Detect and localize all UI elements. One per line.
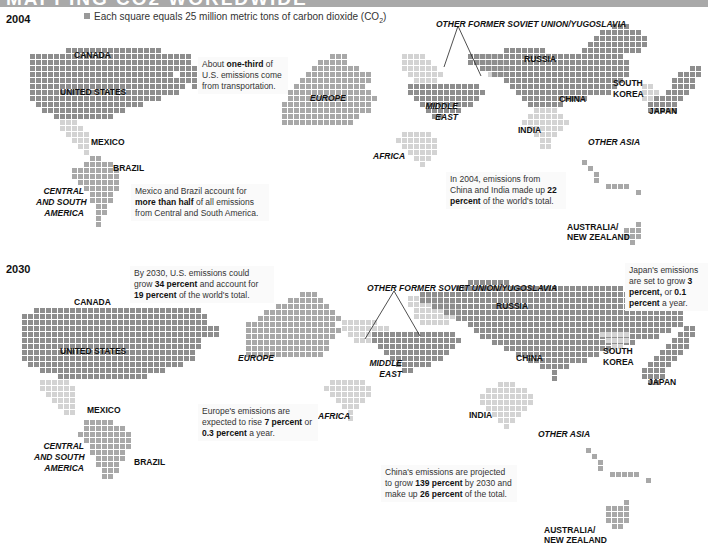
emission-square: [660, 368, 665, 373]
emission-square: [570, 292, 575, 297]
emission-square: [40, 314, 45, 319]
emission-square: [606, 332, 611, 337]
emission-square: [420, 350, 425, 355]
emission-square: [486, 328, 491, 333]
emission-square: [678, 344, 683, 349]
emission-square: [504, 334, 509, 339]
emission-square: [582, 304, 587, 309]
emission-square: [660, 328, 665, 333]
emission-square: [108, 438, 113, 443]
emission-square: [114, 468, 119, 473]
emission-square: [432, 350, 437, 355]
emission-square: [142, 308, 147, 313]
label-china-2030: CHINA: [516, 353, 543, 364]
emission-square: [258, 322, 263, 327]
emission-square: [88, 338, 93, 343]
emission-square: [46, 386, 51, 391]
emission-square: [252, 334, 257, 339]
emission-square: [112, 308, 117, 313]
label-middle-east-2004: MIDDLEEAST: [420, 101, 458, 123]
emission-square: [102, 462, 107, 467]
emission-square: [52, 320, 57, 325]
emission-square: [528, 334, 533, 339]
emission-square: [510, 328, 515, 333]
emission-square: [594, 304, 599, 309]
emission-square: [276, 316, 281, 321]
label-csa-2004: CENTRALAND SOUTHAMERICA: [36, 186, 84, 219]
emission-square: [516, 394, 521, 399]
emission-square: [124, 374, 129, 379]
emission-square: [52, 326, 57, 331]
emission-square: [100, 326, 105, 331]
emission-square: [318, 346, 323, 351]
emission-square: [46, 350, 51, 355]
emission-square: [516, 406, 521, 411]
emission-square: [114, 444, 119, 449]
emission-square: [600, 310, 605, 315]
emission-square: [438, 356, 443, 361]
emission-square: [414, 332, 419, 337]
emission-square: [618, 332, 623, 337]
emission-square: [208, 326, 213, 331]
emission-square: [136, 308, 141, 313]
emission-square: [522, 328, 527, 333]
emission-square: [142, 350, 147, 355]
emission-square: [130, 326, 135, 331]
emission-square: [312, 316, 317, 321]
emission-square: [172, 332, 177, 337]
emission-square: [202, 326, 207, 331]
emission-square: [288, 328, 293, 333]
emission-square: [366, 386, 371, 391]
emission-square: [528, 304, 533, 309]
emission-square: [52, 356, 57, 361]
emission-square: [408, 362, 413, 367]
label-us-2030: UNITED STATES: [60, 346, 126, 357]
emission-square: [88, 374, 93, 379]
emission-square: [64, 392, 69, 397]
emission-square: [190, 326, 195, 331]
emission-square: [600, 322, 605, 327]
emission-square: [118, 374, 123, 379]
label-south-korea-2004: SOUTHKOREA: [613, 78, 644, 100]
emission-square: [528, 328, 533, 333]
emission-square: [646, 478, 651, 483]
emission-square: [288, 352, 293, 357]
emission-square: [360, 398, 365, 403]
emission-square: [108, 456, 113, 461]
emission-square: [324, 386, 329, 391]
emission-square: [40, 326, 45, 331]
emission-square: [396, 332, 401, 337]
emission-square: [202, 314, 207, 319]
emission-square: [510, 406, 515, 411]
emission-square: [348, 386, 353, 391]
emission-square: [172, 314, 177, 319]
emission-square: [426, 356, 431, 361]
emission-square: [102, 420, 107, 425]
emission-square: [112, 368, 117, 373]
emission-square: [522, 400, 527, 405]
emission-square: [564, 304, 569, 309]
emission-square: [330, 392, 335, 397]
emission-square: [58, 404, 63, 409]
emission-square: [546, 322, 551, 327]
emission-square: [70, 326, 75, 331]
emission-square: [516, 388, 521, 393]
emission-square: [258, 340, 263, 345]
emission-square: [612, 316, 617, 321]
emission-square: [190, 314, 195, 319]
emission-square: [264, 334, 269, 339]
emission-square: [160, 320, 165, 325]
emission-square: [456, 298, 461, 303]
emission-square: [264, 346, 269, 351]
emission-square: [522, 322, 527, 327]
label-australia-2004: AUSTRALIA/NEW ZEALAND: [567, 222, 630, 242]
emission-square: [594, 340, 599, 345]
emission-square: [22, 314, 27, 319]
emission-square: [130, 320, 135, 325]
emission-square: [348, 398, 353, 403]
emission-square: [246, 328, 251, 333]
emission-square: [342, 398, 347, 403]
emission-square: [414, 302, 419, 307]
emission-square: [432, 314, 437, 319]
emission-square: [588, 310, 593, 315]
